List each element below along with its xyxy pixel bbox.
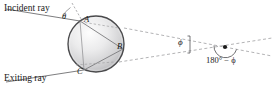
point-b-label: B: [117, 42, 122, 51]
theta-angle-label: θ: [62, 12, 66, 21]
vertex-intersection-dot: [223, 45, 227, 49]
incident-ray-extension-dashed: [124, 28, 272, 56]
point-c-label: C: [77, 67, 83, 76]
point-a-label: A: [84, 15, 89, 24]
incident-ray-label: Incident ray: [4, 4, 50, 14]
phi-angle-label: ϕ: [178, 38, 183, 47]
exiting-ray-label: Exiting ray: [4, 74, 46, 84]
supplement-angle-label: 180° − ϕ: [206, 56, 236, 65]
